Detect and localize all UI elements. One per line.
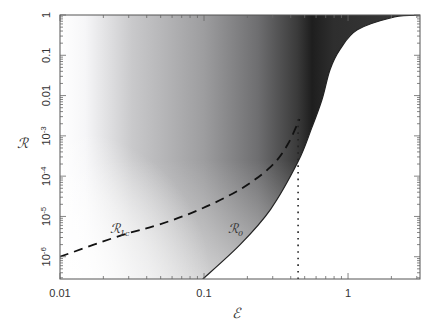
y-tick-label: 10-3 [39,126,52,146]
y-tick-label: 0.01 [40,85,52,106]
x-tick-label: 1 [345,287,351,299]
plot-area [60,15,422,281]
y-tick-label: 10-4 [39,166,52,186]
x-axis-label: ℰ [232,305,242,321]
y-tick-label: 1 [40,12,52,18]
y-tick-label: 10-5 [39,206,52,226]
x-tick-label: 0.1 [196,287,211,299]
x-tick-label: 0.01 [49,287,70,299]
y-tick-label: 10-6 [39,246,52,266]
chart: 0.010.11 10.10.0110-310-410-510-6 ℰ ℛ ℛ1… [0,0,434,334]
y-tick-label: 0.1 [40,48,52,63]
y-axis-label: ℛ [17,135,29,151]
